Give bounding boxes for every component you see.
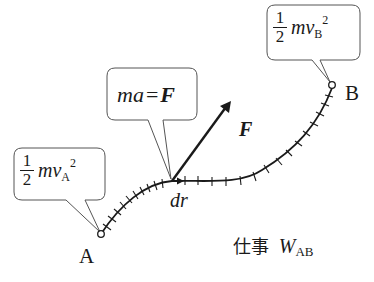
subscript-a: A: [61, 170, 70, 184]
mv-text: mv: [38, 159, 61, 181]
callout-ke-a: 1 2 mvA2: [20, 152, 76, 189]
point-a-marker: [98, 231, 105, 238]
point-b-marker: [329, 82, 336, 89]
superscript-2: 2: [70, 156, 76, 170]
fraction-half: 1 2: [273, 9, 287, 46]
subscript-b: B: [314, 27, 322, 41]
work-kanji: 仕事: [233, 236, 269, 257]
force-label: F: [239, 119, 252, 139]
callout-newton: ma=F: [117, 84, 175, 106]
ke-b-expression: mvB2: [291, 14, 328, 40]
displacement-label: dr: [170, 190, 188, 210]
frac-denominator: 2: [276, 28, 285, 46]
point-b-label: B: [345, 83, 359, 104]
equals-sign: =: [146, 82, 158, 107]
superscript-2: 2: [322, 13, 328, 27]
point-a-label: A: [79, 246, 94, 267]
work-subscript: AB: [295, 244, 313, 259]
work-label: 仕事 WAB: [233, 236, 313, 258]
frac-numerator: 1: [276, 9, 285, 27]
newton-lhs: ma: [117, 82, 144, 107]
newton-rhs: F: [160, 82, 175, 107]
callout-ke-b: 1 2 mvB2: [273, 9, 328, 46]
work-symbol: W: [279, 235, 296, 257]
frac-denominator: 2: [23, 171, 32, 189]
ke-a-expression: mvA2: [38, 157, 76, 183]
fraction-half: 1 2: [20, 152, 34, 189]
mv-text: mv: [291, 16, 314, 38]
frac-numerator: 1: [23, 152, 32, 170]
